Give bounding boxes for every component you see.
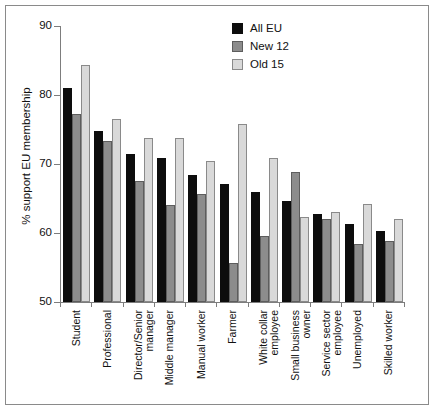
bar bbox=[354, 244, 363, 302]
legend-item: Old 15 bbox=[232, 58, 289, 71]
bar bbox=[345, 224, 354, 302]
bar bbox=[394, 219, 403, 302]
bar bbox=[157, 158, 166, 302]
bar bbox=[229, 263, 238, 302]
legend-swatch bbox=[232, 23, 243, 34]
bar-group bbox=[126, 26, 153, 302]
bar bbox=[94, 131, 103, 302]
x-tick-label-line: owner bbox=[301, 310, 312, 402]
bar bbox=[376, 231, 385, 302]
x-tick-mark bbox=[404, 302, 405, 307]
bar bbox=[238, 124, 247, 302]
x-tick-mark bbox=[373, 302, 374, 307]
y-tick-label: 50 bbox=[0, 296, 52, 308]
bar bbox=[220, 184, 229, 302]
x-tick-mark bbox=[123, 302, 124, 307]
bar-group bbox=[157, 26, 184, 302]
bar bbox=[63, 88, 72, 302]
x-tick-label-line: Professional bbox=[101, 310, 113, 368]
bar bbox=[135, 181, 144, 302]
x-tick-label-line: Service sector bbox=[320, 310, 332, 377]
bar bbox=[331, 212, 340, 302]
bar bbox=[206, 161, 215, 302]
x-tick-label: Professional bbox=[102, 310, 113, 402]
bar bbox=[126, 154, 135, 302]
bar bbox=[112, 119, 121, 302]
x-tick-label-line: Small business bbox=[289, 310, 301, 381]
bar bbox=[363, 204, 372, 302]
x-tick-label: Unemployed bbox=[352, 310, 363, 402]
x-tick-label: Farmer bbox=[227, 310, 238, 402]
x-tick-label-line: Manual worker bbox=[195, 310, 207, 379]
bar bbox=[300, 217, 309, 302]
bar bbox=[322, 219, 331, 302]
x-tick-label-line: employee bbox=[332, 310, 343, 402]
bar bbox=[175, 138, 184, 302]
bar bbox=[188, 175, 197, 302]
legend-label: Old 15 bbox=[250, 59, 284, 70]
x-tick-label: Director/Seniormanager bbox=[133, 310, 155, 402]
legend-label: New 12 bbox=[250, 41, 289, 52]
bar bbox=[72, 114, 81, 302]
legend-item: New 12 bbox=[232, 40, 289, 53]
bar-group bbox=[94, 26, 121, 302]
bar-group bbox=[63, 26, 90, 302]
x-tick-label-line: Farmer bbox=[226, 310, 238, 344]
x-tick-mark bbox=[154, 302, 155, 307]
x-tick-label: Student bbox=[71, 310, 82, 402]
x-tick-label: White collaremployee bbox=[258, 310, 280, 402]
figure-container: % support EU membership 5060708090 Stude… bbox=[0, 0, 435, 411]
bar bbox=[269, 158, 278, 302]
x-tick-mark bbox=[341, 302, 342, 307]
legend-swatch bbox=[232, 41, 243, 52]
x-tick-label-line: employee bbox=[269, 310, 280, 402]
y-tick-label: 80 bbox=[0, 89, 52, 101]
bar bbox=[144, 138, 153, 302]
bar-group bbox=[345, 26, 372, 302]
x-tick-mark bbox=[60, 302, 61, 307]
x-tick-mark bbox=[279, 302, 280, 307]
x-tick-mark bbox=[310, 302, 311, 307]
x-tick-mark bbox=[185, 302, 186, 307]
legend-item: All EU bbox=[232, 22, 289, 35]
x-tick-label-line: Unemployed bbox=[351, 310, 363, 369]
bar bbox=[260, 236, 269, 302]
legend-label: All EU bbox=[250, 23, 282, 34]
bar bbox=[291, 172, 300, 302]
x-tick-mark bbox=[91, 302, 92, 307]
x-tick-label: Small businessowner bbox=[290, 310, 312, 402]
x-tick-label-line: Student bbox=[70, 310, 82, 346]
bar bbox=[251, 192, 260, 302]
bar bbox=[103, 141, 112, 302]
x-tick-label-line: Middle manager bbox=[163, 310, 175, 385]
bar bbox=[385, 241, 394, 302]
bar bbox=[313, 214, 322, 302]
bar-group bbox=[188, 26, 215, 302]
chart-legend: All EUNew 12Old 15 bbox=[232, 22, 289, 76]
x-tick-label: Manual worker bbox=[196, 310, 207, 402]
x-axis-line bbox=[60, 302, 405, 303]
x-tick-label: Skilled worker bbox=[383, 310, 394, 402]
x-tick-label: Service sectoremployee bbox=[321, 310, 343, 402]
x-tick-label: Middle manager bbox=[164, 310, 175, 402]
x-tick-label-line: manager bbox=[144, 310, 155, 402]
x-tick-mark bbox=[216, 302, 217, 307]
bar bbox=[282, 201, 291, 302]
bar-group bbox=[376, 26, 403, 302]
legend-swatch bbox=[232, 59, 243, 70]
x-tick-mark bbox=[248, 302, 249, 307]
y-tick-label: 60 bbox=[0, 227, 52, 239]
x-tick-label-line: Skilled worker bbox=[382, 310, 394, 375]
y-tick-label: 90 bbox=[0, 20, 52, 32]
bar bbox=[197, 194, 206, 302]
bar bbox=[166, 205, 175, 302]
bar-group bbox=[313, 26, 340, 302]
bar bbox=[81, 65, 90, 302]
y-tick-label: 70 bbox=[0, 158, 52, 170]
